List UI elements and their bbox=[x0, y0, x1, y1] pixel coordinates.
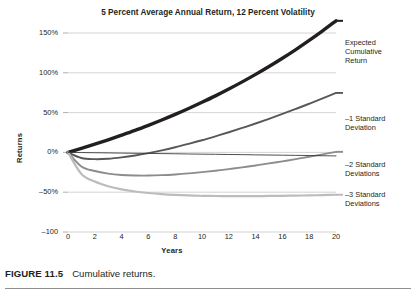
y-axis-tick-label: 150% bbox=[39, 29, 58, 36]
x-axis-tick-label: 14 bbox=[244, 233, 268, 240]
x-axis-tick-label: 0 bbox=[56, 233, 80, 240]
y-axis-tick-label: 50% bbox=[43, 109, 58, 116]
x-axis-tick-label: 6 bbox=[136, 233, 160, 240]
y-axis-tick-label: 0% bbox=[47, 148, 58, 155]
figure-caption-text: Cumulative returns. bbox=[72, 268, 155, 279]
x-axis-tick-labels: 02468101214161820 bbox=[0, 233, 416, 245]
x-axis-tick-label: 18 bbox=[297, 233, 321, 240]
series-annotation-3-standard-deviations: –3 Standard Deviations bbox=[345, 190, 385, 208]
series-annotation-2-standard-deviations: –2 Standard Deviations bbox=[345, 160, 385, 178]
caption-divider bbox=[5, 288, 411, 289]
series-lines bbox=[68, 21, 336, 196]
series-annotation-1-standard-deviation: –1 Standard Deviation bbox=[345, 114, 385, 132]
gridlines bbox=[68, 33, 336, 232]
figure-caption: FIGURE 11.5Cumulative returns. bbox=[5, 268, 155, 279]
series-line bbox=[68, 152, 336, 156]
y-axis-tick-label: 100% bbox=[39, 69, 58, 76]
x-axis-tick-label: 16 bbox=[270, 233, 294, 240]
axis-ticks bbox=[63, 33, 68, 232]
annotation-leader-lines bbox=[336, 21, 343, 195]
x-axis-tick-label: 10 bbox=[190, 233, 214, 240]
x-axis-title: Years bbox=[0, 246, 344, 255]
figure-caption-number: FIGURE 11.5 bbox=[5, 268, 63, 279]
y-axis-title: Returns bbox=[14, 118, 26, 178]
x-axis-tick-label: 8 bbox=[163, 233, 187, 240]
figure-container: 5 Percent Average Annual Return, 12 Perc… bbox=[0, 0, 416, 296]
series-line bbox=[68, 21, 336, 153]
x-axis-tick-label: 4 bbox=[110, 233, 134, 240]
y-axis-tick-label: –50% bbox=[39, 188, 58, 195]
x-axis-tick-label: 2 bbox=[83, 233, 107, 240]
x-axis-tick-label: 12 bbox=[217, 233, 241, 240]
x-axis-tick-label: 20 bbox=[324, 233, 348, 240]
series-annotation-expected-cumulative-return: Expected Cumulative Return bbox=[345, 38, 382, 66]
